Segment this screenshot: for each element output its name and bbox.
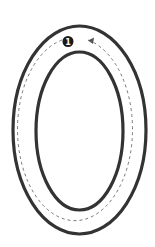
track-outer-edge [13,26,146,234]
direction-arrow-icon [88,38,94,45]
start-marker: 1 [63,36,74,47]
oval-track-diagram: 1 [0,0,155,247]
track-inner-edge [36,52,123,210]
start-marker-label: 1 [65,38,71,47]
